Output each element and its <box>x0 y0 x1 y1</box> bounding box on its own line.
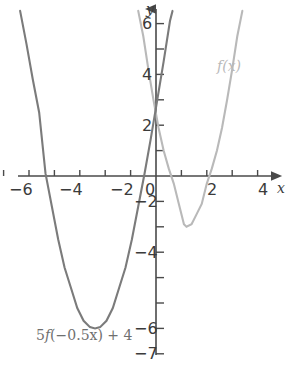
x-axis-label: x <box>277 181 285 195</box>
x-tick-label-neg4: −4 <box>59 182 83 198</box>
y-tick-label-pos2: 2 <box>142 118 152 134</box>
x-axis-ticks <box>4 170 258 176</box>
x-tick-label-pos2: 2 <box>207 182 217 198</box>
chart-container: −6 −4 −2 0 2 4 6 4 2 −2 −4 −6 −7 y x f(x… <box>0 0 293 369</box>
curve-label-transformed: 5f(−0.5x) + 4 <box>36 328 132 342</box>
y-axis-label: y <box>146 2 154 16</box>
x-tick-label-neg2: −2 <box>110 182 134 198</box>
y-axis-ticks <box>156 24 164 354</box>
curve-label-f-of-x: f(x) <box>217 59 241 73</box>
curve-label-transformed-suffix: (−0.5x) + 4 <box>50 327 132 343</box>
y-tick-label-neg2: −2 <box>134 194 158 210</box>
x-tick-label-pos4: 4 <box>258 182 268 198</box>
x-tick-label-neg6: −6 <box>9 182 33 198</box>
curve-transformed <box>20 11 172 329</box>
y-tick-label-neg6: −6 <box>134 321 158 337</box>
y-tick-label-neg4: −4 <box>134 245 158 261</box>
y-tick-label-pos6: 6 <box>142 16 152 32</box>
y-tick-label-pos4: 4 <box>142 67 152 83</box>
curve-label-transformed-prefix: 5 <box>36 327 45 343</box>
y-tick-label-neg7: −7 <box>134 346 158 362</box>
